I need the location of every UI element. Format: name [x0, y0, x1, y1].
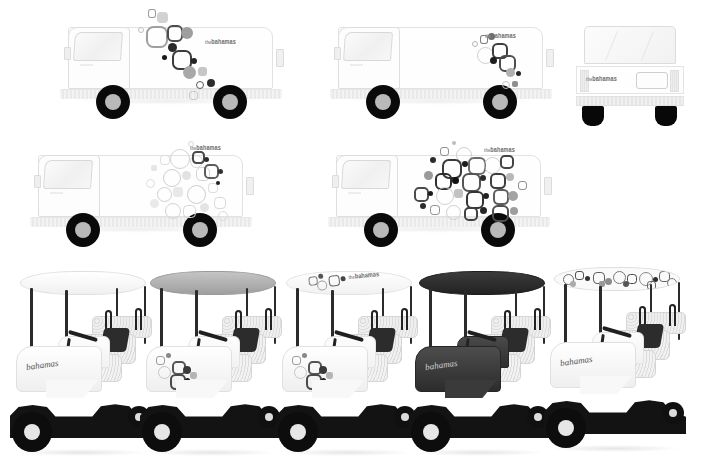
truck-wordmark: thebahamas — [190, 143, 221, 151]
vehicle-truck-3-front: thebahamas — [562, 12, 697, 132]
truck-mirror-icon — [332, 175, 339, 188]
truck-wordmark: thebahamas — [485, 31, 516, 39]
cart-canopy — [554, 267, 680, 291]
truck-window — [73, 32, 123, 61]
cart-front-tire — [12, 412, 52, 452]
vehicle-cart-3: thebahamas — [272, 262, 424, 462]
truck-front-wordmark: thebahamas — [586, 74, 617, 82]
cart-canopy — [20, 271, 146, 295]
cart-front-tire — [546, 408, 586, 448]
truck-side-skirt — [330, 89, 552, 99]
vehicle-truck-5: thebahamas — [318, 133, 558, 253]
vehicle-truck-4: thebahamas — [20, 133, 260, 253]
truck-front-windshield — [584, 26, 676, 64]
truck-door-handle — [80, 64, 93, 66]
cart-post-front-left — [30, 288, 33, 350]
truck-side-skirt — [60, 89, 282, 99]
truck-license-plate — [636, 72, 668, 89]
cart-post-front-left — [429, 288, 432, 350]
cart-floorboard — [580, 376, 632, 394]
cart-front-tire — [278, 412, 318, 452]
cart-floorboard — [445, 380, 497, 398]
cart-canopy — [419, 271, 545, 295]
truck-rear-lamp — [246, 177, 254, 195]
truck-front-tire-right — [655, 106, 677, 126]
vehicle-truck-2: thebahamas — [320, 5, 560, 125]
truck-door-handle — [350, 64, 363, 66]
truck-rear-lamp — [544, 177, 552, 195]
cart-grab-handle-right — [669, 304, 676, 326]
truck-front-wheel — [364, 213, 398, 247]
truck-door-handle — [50, 192, 63, 194]
truck-window — [343, 32, 393, 61]
cart-floorboard — [46, 380, 98, 398]
truck-window — [43, 160, 93, 189]
wordmark-name: bahamas — [592, 74, 617, 82]
truck-wordmark: thebahamas — [205, 37, 236, 45]
truck-window — [341, 160, 391, 189]
vehicle-cart-2 — [136, 262, 288, 462]
vehicle-cart-4: bahamas — [405, 262, 557, 462]
truck-side-skirt — [328, 217, 550, 227]
truck-mirror-icon — [334, 47, 341, 60]
truck-front-wheel — [366, 85, 400, 119]
vehicle-cart-5: bahamas — [540, 258, 692, 458]
cart-post-front-left — [296, 288, 299, 350]
truck-front-tire-left — [582, 106, 604, 126]
cart-post-front-left — [564, 284, 567, 346]
truck-door-handle — [348, 192, 361, 194]
truck-rear-lamp — [276, 49, 284, 67]
truck-mirror-icon — [64, 47, 71, 60]
cart-grab-handle-right — [265, 308, 272, 330]
cart-floorboard — [312, 380, 364, 398]
truck-rear-wheel — [213, 85, 247, 119]
truck-front-wheel — [66, 213, 100, 247]
truck-rear-wheel — [183, 213, 217, 247]
cart-front-tire — [411, 412, 451, 452]
cart-front-tire — [142, 412, 182, 452]
cart-post-front-left — [160, 288, 163, 350]
wordmark-name: bahamas — [491, 31, 516, 39]
truck-front-bumper — [576, 96, 684, 106]
design-sheet: thebahamas thebahamas — [0, 0, 705, 465]
cart-rear-tire — [662, 402, 684, 424]
truck-front-wheel — [96, 85, 130, 119]
cart-floorboard — [176, 380, 228, 398]
wordmark-name: bahamas — [196, 143, 221, 151]
truck-rear-lamp — [546, 49, 554, 67]
truck-mirror-icon — [34, 175, 41, 188]
cart-canopy — [150, 271, 276, 295]
truck-wordmark: thebahamas — [484, 145, 515, 153]
truck-rear-wheel — [483, 85, 517, 119]
vehicle-truck-1: thebahamas — [50, 5, 290, 125]
truck-front-lamp-right — [670, 70, 679, 92]
wordmark-name: bahamas — [490, 145, 515, 153]
wordmark-name: bahamas — [211, 37, 236, 45]
